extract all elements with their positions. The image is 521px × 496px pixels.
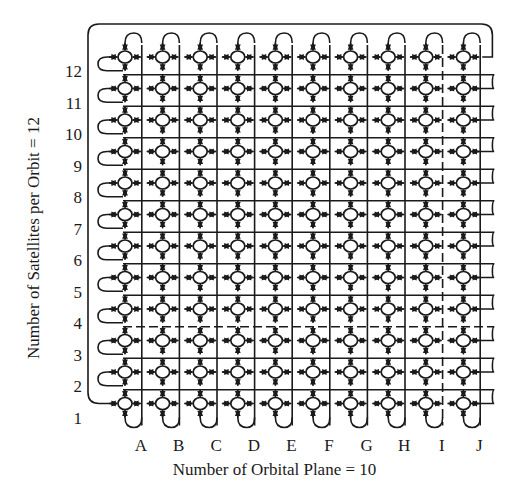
bottom-wrap-loop <box>463 412 480 428</box>
satellite-node-B8 <box>156 177 170 189</box>
satellite-node-H6 <box>381 240 395 252</box>
satellite-node-C7 <box>193 209 207 221</box>
top-wrap-loop <box>313 33 330 49</box>
satellite-node-A11 <box>118 83 132 95</box>
satellite-node-E4 <box>268 303 282 315</box>
satellite-node-H1 <box>381 398 395 410</box>
satellite-node-J5 <box>456 272 470 284</box>
satellite-node-I7 <box>419 209 433 221</box>
row-label-8: 8 <box>52 189 82 206</box>
satellite-node-I5 <box>419 272 433 284</box>
satellite-node-A1 <box>118 398 132 410</box>
bottom-wrap-loop <box>351 412 368 428</box>
satellite-node-H4 <box>381 303 395 315</box>
row-label-6: 6 <box>52 252 82 269</box>
top-wrap-loop <box>351 33 368 49</box>
column-label-F: F <box>319 437 339 454</box>
bottom-wrap-loop <box>238 412 255 428</box>
satellite-node-J8 <box>456 177 470 189</box>
row-label-2: 2 <box>52 378 82 395</box>
satellite-node-A4 <box>118 303 132 315</box>
satellite-node-G7 <box>344 209 358 221</box>
row-label-12: 12 <box>52 63 82 80</box>
satellite-node-E3 <box>268 335 282 347</box>
satellite-node-J10 <box>456 114 470 126</box>
bottom-wrap-loop <box>200 412 217 428</box>
row-label-3: 3 <box>52 347 82 364</box>
satellite-node-I8 <box>419 177 433 189</box>
satellite-node-A7 <box>118 209 132 221</box>
satellite-node-D3 <box>231 335 245 347</box>
satellite-node-I6 <box>419 240 433 252</box>
satellite-node-C10 <box>193 114 207 126</box>
satellite-node-D12 <box>231 51 245 63</box>
satellite-node-G8 <box>344 177 358 189</box>
satellite-node-I11 <box>419 83 433 95</box>
column-label-E: E <box>281 437 301 454</box>
satellite-node-G11 <box>344 83 358 95</box>
satellite-node-I2 <box>419 366 433 378</box>
satellite-node-E6 <box>268 240 282 252</box>
satellite-node-H9 <box>381 146 395 158</box>
column-label-J: J <box>469 437 489 454</box>
satellite-node-F8 <box>306 177 320 189</box>
satellite-node-B9 <box>156 146 170 158</box>
satellite-node-G12 <box>344 51 358 63</box>
satellite-node-H2 <box>381 366 395 378</box>
satellite-node-F7 <box>306 209 320 221</box>
bottom-wrap-loop <box>426 412 443 428</box>
satellite-node-A6 <box>118 240 132 252</box>
satellite-node-F1 <box>306 398 320 410</box>
satellite-node-E1 <box>268 398 282 410</box>
satellite-node-E8 <box>268 177 282 189</box>
satellite-node-C11 <box>193 83 207 95</box>
satellite-node-C9 <box>193 146 207 158</box>
column-label-H: H <box>394 437 414 454</box>
satellite-node-H12 <box>381 51 395 63</box>
satellite-node-G10 <box>344 114 358 126</box>
satellite-node-I3 <box>419 335 433 347</box>
satellite-node-J6 <box>456 240 470 252</box>
satellite-node-D11 <box>231 83 245 95</box>
satellite-node-A8 <box>118 177 132 189</box>
satellite-node-I12 <box>419 51 433 63</box>
satellite-node-A9 <box>118 146 132 158</box>
satellite-node-F10 <box>306 114 320 126</box>
satellite-node-F2 <box>306 366 320 378</box>
top-wrap-loop <box>388 33 405 49</box>
top-wrap-loop <box>426 33 443 49</box>
satellite-node-C6 <box>193 240 207 252</box>
satellite-node-G1 <box>344 398 358 410</box>
top-wrap-loop <box>163 33 180 49</box>
bottom-wrap-loop <box>313 412 330 428</box>
satellite-node-B10 <box>156 114 170 126</box>
satellite-node-B11 <box>156 83 170 95</box>
satellite-node-H7 <box>381 209 395 221</box>
satellite-node-F9 <box>306 146 320 158</box>
satellite-node-B6 <box>156 240 170 252</box>
top-wrap-loop <box>125 33 142 49</box>
satellite-node-A2 <box>118 366 132 378</box>
satellite-node-J2 <box>456 366 470 378</box>
top-wrap-loop <box>275 33 292 49</box>
bottom-wrap-loop <box>163 412 180 428</box>
satellite-node-J4 <box>456 303 470 315</box>
satellite-node-E11 <box>268 83 282 95</box>
top-wrap-loop <box>463 33 480 49</box>
satellite-node-G6 <box>344 240 358 252</box>
satellite-node-F5 <box>306 272 320 284</box>
column-label-C: C <box>206 437 226 454</box>
satellite-node-A3 <box>118 335 132 347</box>
satellite-node-B1 <box>156 398 170 410</box>
satellite-node-F12 <box>306 51 320 63</box>
top-wrap-loop <box>238 33 255 49</box>
satellite-node-E12 <box>268 51 282 63</box>
satellite-node-B3 <box>156 335 170 347</box>
satellite-node-C1 <box>193 398 207 410</box>
satellite-node-H5 <box>381 272 395 284</box>
row-label-11: 11 <box>52 95 82 112</box>
row-label-4: 4 <box>52 315 82 332</box>
column-label-B: B <box>169 437 189 454</box>
satellite-node-B12 <box>156 51 170 63</box>
row-label-10: 10 <box>52 126 82 143</box>
